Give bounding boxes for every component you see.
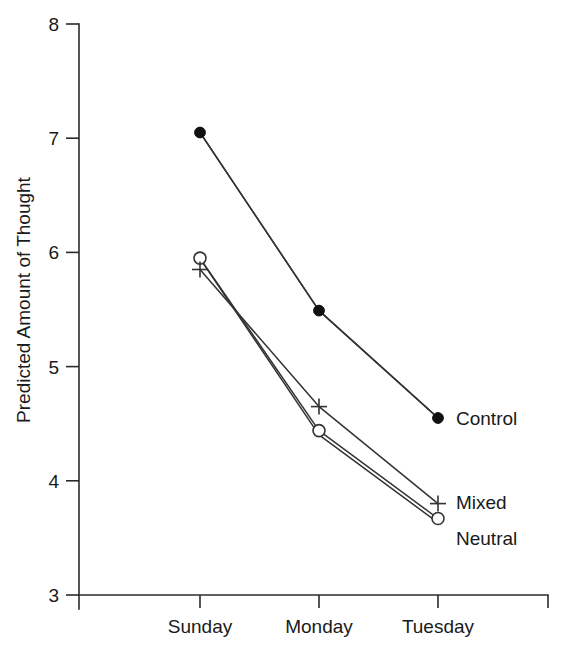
series-label-mixed: Mixed [456, 492, 507, 513]
line-chart-canvas: 8 7 6 5 4 3 Sunday Monday Tuesday Predic… [0, 0, 575, 655]
y-tick-label-5: 5 [48, 357, 59, 378]
y-tick-label-8: 8 [48, 14, 59, 35]
data-point-neutral-monday [313, 425, 325, 437]
series-line-control [200, 132, 438, 418]
markers-neutral [194, 252, 444, 524]
data-point-mixed-tuesday [430, 496, 446, 512]
y-tick-label-7: 7 [48, 128, 59, 149]
y-tick-label-3: 3 [48, 585, 59, 606]
y-axis-title: Predicted Amount of Thought [13, 176, 34, 422]
series-line-control-redraw [200, 133, 438, 419]
y-tick-label-4: 4 [48, 471, 59, 492]
series-label-neutral: Neutral [456, 528, 517, 549]
series-line-neutral-redraw [200, 258, 438, 518]
series-line-neutral [200, 259, 438, 523]
y-tick-label-6: 6 [48, 242, 59, 263]
data-point-control-monday [314, 305, 325, 316]
x-axis-ticks [200, 595, 548, 608]
markers-mixed [192, 262, 446, 512]
y-axis-ticks [66, 24, 79, 595]
series-overdraw-group [200, 133, 438, 519]
x-tick-label-tuesday: Tuesday [402, 616, 475, 637]
data-point-control-tuesday [433, 413, 444, 424]
markers-control [195, 127, 444, 423]
series-label-control: Control [456, 408, 517, 429]
x-tick-label-sunday: Sunday [168, 616, 233, 637]
x-tick-label-monday: Monday [285, 616, 353, 637]
data-point-neutral-tuesday [432, 513, 444, 525]
data-point-control-sunday [195, 127, 206, 138]
chart-figure: 8 7 6 5 4 3 Sunday Monday Tuesday Predic… [0, 0, 575, 655]
